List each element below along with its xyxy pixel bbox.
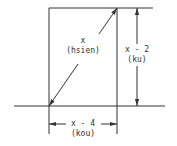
base-expr: x - 4 [71,119,95,128]
hypotenuse-arrow [49,8,117,106]
height-name: (ku) [127,55,146,64]
diagram-canvas: x (hsien) x - 2 (ku) x - 4 (kou) [0,0,177,146]
height-expr: x - 2 [125,45,149,54]
hypotenuse-name: (hsien) [66,46,100,55]
base-name: (kou) [71,129,95,138]
hypotenuse-expr: x [81,36,86,45]
